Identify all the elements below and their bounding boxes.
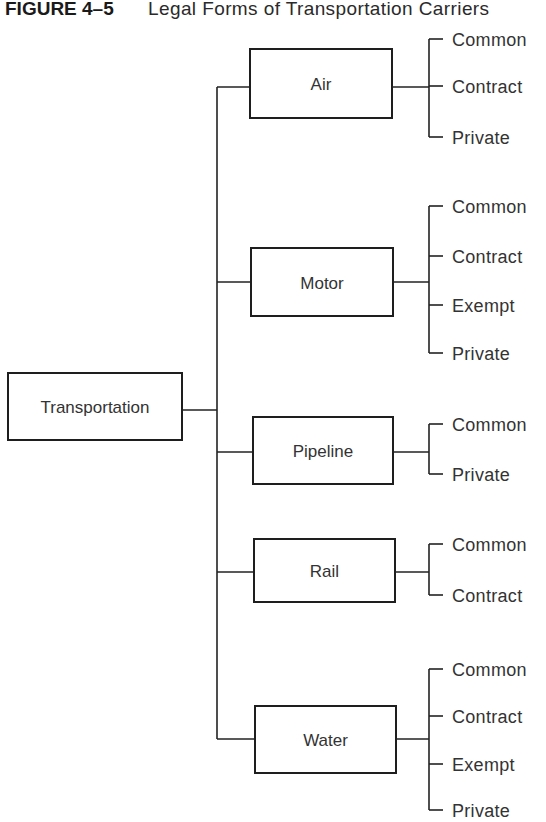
mode-label-rail: Rail — [310, 562, 339, 581]
carrier-label-private: Private — [452, 801, 510, 821]
carrier-label-private: Private — [452, 465, 510, 485]
mode-label-pipeline: Pipeline — [293, 442, 354, 461]
carrier-label-contract: Contract — [452, 247, 522, 267]
carrier-label-common: Common — [452, 30, 527, 50]
carrier-label-common: Common — [452, 660, 527, 680]
mode-node-motor: MotorCommonContractExemptPrivate — [217, 197, 527, 364]
mode-node-water: WaterCommonContractExemptPrivate — [217, 660, 527, 821]
mode-label-water: Water — [303, 731, 348, 750]
carrier-label-common: Common — [452, 415, 527, 435]
mode-node-rail: RailCommonContract — [217, 535, 527, 606]
mode-label-air: Air — [311, 75, 332, 94]
mode-node-air: AirCommonContractPrivate — [217, 30, 527, 148]
figure-caption: FIGURE 4–5 Legal Forms of Transportation… — [5, 0, 490, 19]
mode-label-motor: Motor — [300, 274, 344, 293]
carrier-label-private: Private — [452, 344, 510, 364]
carrier-label-exempt: Exempt — [452, 755, 515, 775]
figure-title: Legal Forms of Transportation Carriers — [148, 0, 490, 19]
carrier-label-exempt: Exempt — [452, 296, 515, 316]
carrier-label-contract: Contract — [452, 77, 522, 97]
mode-node-pipeline: PipelineCommonPrivate — [217, 415, 527, 485]
carrier-label-common: Common — [452, 535, 527, 555]
carrier-label-private: Private — [452, 128, 510, 148]
carrier-label-contract: Contract — [452, 586, 522, 606]
root-label: Transportation — [41, 398, 150, 417]
transportation-carriers-diagram: FIGURE 4–5 Legal Forms of Transportation… — [0, 0, 546, 822]
carrier-label-common: Common — [452, 197, 527, 217]
tree: TransportationAirCommonContractPrivateMo… — [8, 30, 527, 821]
figure-number: FIGURE 4–5 — [5, 0, 114, 19]
carrier-label-contract: Contract — [452, 707, 522, 727]
root-node: Transportation — [8, 373, 217, 440]
